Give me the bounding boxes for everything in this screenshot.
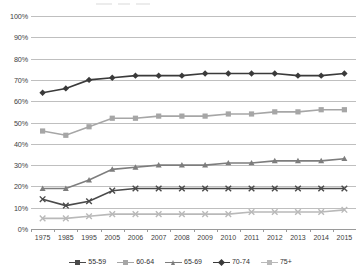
gridline [31,165,356,166]
x-axis-tick [286,229,287,232]
legend-item-70-74[interactable]: 70-74 [213,258,250,266]
x-axis-tick-label: 2010 [221,234,237,241]
x-axis-tick [101,229,102,232]
x-axis-tick [333,229,334,232]
plot-area [31,16,356,229]
x-axis-tick-label: 2007 [151,234,167,241]
legend-item-60-64[interactable]: 60-64 [117,258,154,266]
legend-label: 65-69 [184,258,202,266]
gridline [31,80,356,81]
chart-legend: 55-5960-6465-6970-7475+ [0,258,361,266]
legend-marker-icon [213,259,230,266]
x-axis-tick-label: 2014 [313,234,329,241]
x-axis-tick [310,229,311,232]
legend-item-75+[interactable]: 75+ [261,258,292,266]
legend-item-55-59[interactable]: 55-59 [69,258,106,266]
x-axis-tick-label: 2008 [174,234,190,241]
x-axis-tick [77,229,78,232]
x-axis-tick [240,229,241,232]
x-axis-tick-label: 2013 [290,234,306,241]
x-axis-tick-label: 1985 [58,234,74,241]
y-axis-tick-label: 70% [0,76,28,85]
legend-label: 60-64 [136,258,154,266]
x-axis-tick [194,229,195,232]
legend-marker-icon [165,259,182,266]
legend-label: 75+ [280,258,292,266]
legend-item-65-69[interactable]: 65-69 [165,258,202,266]
y-axis-tick-label: 20% [0,182,28,191]
y-axis-tick-label: 100% [0,12,28,21]
x-axis-tick-label: 2006 [128,234,144,241]
x-axis-tick-label: 2005 [104,234,120,241]
y-axis-tick-label: 0% [0,225,28,234]
gridline [31,16,356,17]
gridline [31,37,356,38]
x-axis-tick-label: 2009 [197,234,213,241]
legend-marker-icon [261,259,278,266]
legend-marker-icon [69,259,86,266]
x-axis-tick [147,229,148,232]
y-axis-tick-label: 10% [0,204,28,213]
x-axis-tick-label: 2015 [337,234,353,241]
x-axis-tick-label: 2012 [267,234,283,241]
x-axis-tick-label: 2011 [244,234,259,241]
y-axis-tick-label: 60% [0,97,28,106]
x-axis-tick [217,229,218,232]
chart-container: 1975198519952005200620072008200920102011… [0,0,361,279]
gridline [31,186,356,187]
gridline [31,59,356,60]
x-axis-tick [170,229,171,232]
y-axis-tick-label: 40% [0,140,28,149]
gridline [31,123,356,124]
legend-marker-icon [117,259,134,266]
title-placeholder [96,1,150,7]
x-axis-tick [31,229,32,232]
y-axis-tick-label: 90% [0,33,28,42]
gridline [31,144,356,145]
y-axis-tick-label: 30% [0,161,28,170]
legend-label: 55-59 [88,258,106,266]
x-axis-tick-label: 1975 [35,234,51,241]
y-axis-tick-label: 50% [0,119,28,128]
x-axis-tick [263,229,264,232]
x-axis-tick-label: 1995 [81,234,97,241]
gridline [31,208,356,209]
legend-label: 70-74 [232,258,250,266]
x-axis-tick [54,229,55,232]
gridline [31,101,356,102]
y-axis-tick-label: 80% [0,55,28,64]
x-axis-tick [124,229,125,232]
